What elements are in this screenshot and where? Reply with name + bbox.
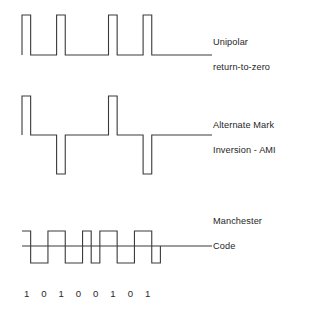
label-manchester-line1: Manchester bbox=[213, 215, 262, 227]
ami-waveform-path bbox=[22, 96, 212, 174]
unipolar-waveform-group bbox=[22, 15, 212, 55]
ami-waveform-group bbox=[22, 96, 212, 174]
label-unipolar-line2: return-to-zero bbox=[213, 61, 270, 73]
bit-label: 0 bbox=[87, 286, 104, 302]
bit-label: 1 bbox=[139, 286, 156, 302]
bit-label: 0 bbox=[70, 286, 87, 302]
label-manchester-code: Manchester Code bbox=[213, 203, 262, 265]
bit-sequence-row: 10100101 bbox=[18, 286, 198, 302]
bit-label: 1 bbox=[18, 286, 35, 302]
bit-label: 0 bbox=[122, 286, 139, 302]
unipolar-waveform-path bbox=[22, 15, 212, 55]
line-coding-figure: Unipolar return-to-zero Alternate Mark I… bbox=[0, 0, 317, 311]
label-ami-line1: Alternate Mark bbox=[213, 119, 276, 131]
manchester-waveform-group bbox=[22, 231, 212, 263]
bit-label: 0 bbox=[35, 286, 52, 302]
label-ami-line2: Inversion - AMI bbox=[213, 144, 276, 156]
label-manchester-line2: Code bbox=[213, 240, 262, 252]
label-unipolar-return-to-zero: Unipolar return-to-zero bbox=[213, 24, 270, 86]
bit-label: 1 bbox=[104, 286, 121, 302]
bit-label: 1 bbox=[53, 286, 70, 302]
label-unipolar-line1: Unipolar bbox=[213, 36, 270, 48]
manchester-waveform-path bbox=[22, 231, 160, 263]
label-alternate-mark-inversion: Alternate Mark Inversion - AMI bbox=[213, 107, 276, 169]
